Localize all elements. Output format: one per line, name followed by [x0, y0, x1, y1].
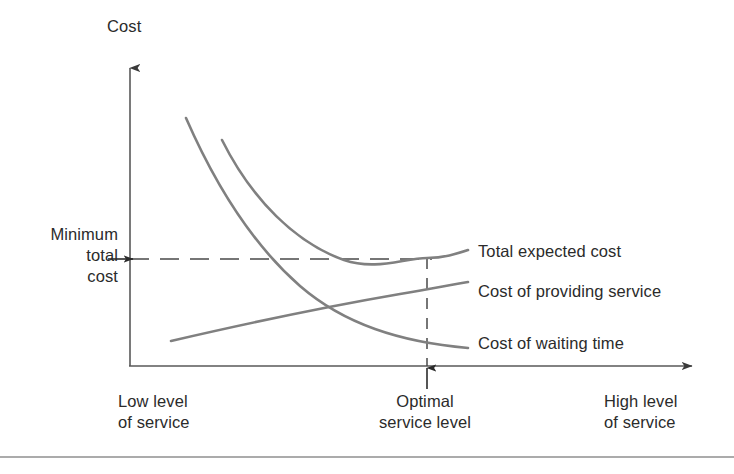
minimum-total-cost-label: Minimum total cost [0, 224, 118, 287]
queuing-cost-chart-figure: Cost Minimum total cost Low level of ser… [0, 0, 734, 474]
curve-label-cost-of-providing-service: Cost of providing service [478, 281, 661, 302]
curve-label-cost-of-waiting-time: Cost of waiting time [478, 333, 624, 354]
x-axis-label-high-level: High level of service [604, 391, 677, 433]
x-axis-label-low-level: Low level of service [118, 391, 190, 433]
curve-label-total-expected-cost: Total expected cost [478, 241, 621, 262]
curve-total-expected-cost [222, 140, 468, 264]
x-axis-label-optimal-level: Optimal service level [340, 391, 510, 433]
y-axis-title: Cost [107, 16, 141, 37]
curve-cost-of-providing-service [171, 282, 468, 341]
